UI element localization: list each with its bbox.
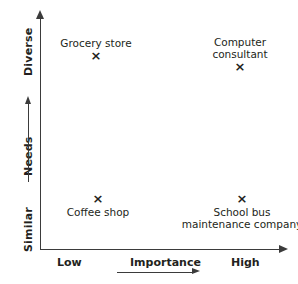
x-axis-arrow-icon: [279, 245, 288, 253]
x-axis-right-label: High: [231, 256, 260, 269]
data-point-label-line-1: School bus: [176, 206, 298, 218]
data-point-label-line-1: Computer: [182, 36, 298, 48]
importance-direction-arrowhead-icon: [192, 268, 200, 274]
data-point-coffee-shop: × Coffee shop: [38, 192, 158, 218]
y-axis-bottom-label: Similar: [22, 207, 35, 252]
data-point-marker-icon: ×: [38, 192, 158, 206]
data-point-marker-icon: ×: [176, 192, 298, 206]
data-point-label: Coffee shop: [38, 206, 158, 218]
y-axis-top-label: Diverse: [22, 28, 35, 76]
x-axis-left-label: Low: [57, 256, 82, 269]
x-axis-title: Importance: [130, 256, 201, 269]
data-point-label-line-2: maintenance company: [176, 218, 298, 230]
data-point-marker-icon: ×: [36, 49, 156, 63]
data-point-school-bus-maintenance-company: × School bus maintenance company: [176, 192, 298, 230]
needs-direction-arrow-icon: [28, 104, 29, 182]
data-point-computer-consultant: Computer consultant ×: [182, 36, 298, 74]
data-point-grocery-store: Grocery store ×: [36, 37, 156, 63]
y-axis-arrow-icon: [36, 10, 44, 19]
data-point-marker-icon: ×: [182, 60, 298, 74]
needs-importance-matrix-chart: Diverse Needs Similar Grocery store × Co…: [0, 0, 298, 284]
x-axis-line: [40, 249, 280, 250]
needs-direction-arrowhead-icon: [25, 96, 31, 104]
importance-direction-arrow-icon: [117, 272, 193, 273]
